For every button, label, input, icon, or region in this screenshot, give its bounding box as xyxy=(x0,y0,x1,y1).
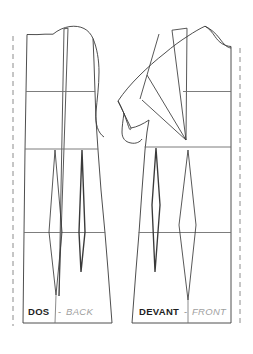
pattern-drawing: DOS - BACK DEVANT - FRONT xyxy=(0,0,253,354)
front-label-separator: - xyxy=(184,306,187,317)
back-label-primary: DOS xyxy=(28,306,50,317)
back-label-secondary: BACK xyxy=(66,306,93,317)
sheet-background xyxy=(0,0,253,354)
pattern-sheet: DOS - BACK DEVANT - FRONT xyxy=(0,0,253,354)
front-label-primary: DEVANT xyxy=(139,306,179,317)
piece-label-back: DOS - BACK xyxy=(28,306,93,317)
piece-label-front: DEVANT - FRONT xyxy=(139,306,227,317)
front-label-secondary: FRONT xyxy=(192,306,227,317)
back-label-separator: - xyxy=(58,306,61,317)
